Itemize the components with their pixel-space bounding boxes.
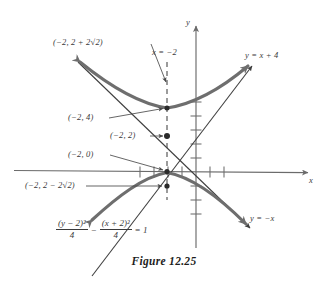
label-point-lower-focus: (−2, 2 − 2√2) [25, 180, 75, 190]
label-vertex-lower: (−2, 0) [68, 149, 94, 159]
lower-branch [92, 173, 246, 225]
equation-fraction-left: (y − 2)² 4 [56, 219, 88, 241]
leader-lines [86, 44, 166, 186]
hyperbola-equation: (y − 2)² 4 − (x + 2)² 4 = 1 [56, 219, 147, 241]
label-point-upper-focus: (−2, 2 + 2√2) [53, 37, 103, 47]
label-asymptote-negative: y = −x [250, 213, 274, 223]
leader-vertex-upper [109, 109, 163, 119]
hyperbola-plot [0, 0, 328, 281]
label-asymptote-positive: y = x + 4 [245, 50, 279, 60]
asymptotes [78, 62, 252, 276]
leader-vertex-lower [110, 155, 163, 170]
point-vertex-upper [165, 106, 170, 111]
equation-fraction-right: (x + 2)² 4 [100, 219, 132, 241]
point-lower-focus [164, 183, 169, 188]
equation-operator: − [91, 225, 97, 235]
label-axis-of-symmetry: x = −2 [152, 47, 177, 57]
upper-branch [80, 62, 248, 108]
equation-equals: = 1 [135, 225, 148, 235]
figure-container: (−2, 2 + 2√2) x = −2 y = x + 4 (−2, 4) (… [0, 0, 328, 281]
label-center: (−2, 2) [110, 130, 136, 140]
hyperbola-branches [80, 62, 248, 224]
label-vertex-upper: (−2, 4) [68, 112, 94, 122]
point-vertex-lower [164, 169, 169, 174]
figure-caption: Figure 12.25 [0, 255, 328, 267]
x-axis-label: x [309, 175, 313, 185]
x-axis [14, 171, 308, 173]
point-center [164, 133, 170, 139]
y-axis-label: y [186, 17, 190, 27]
